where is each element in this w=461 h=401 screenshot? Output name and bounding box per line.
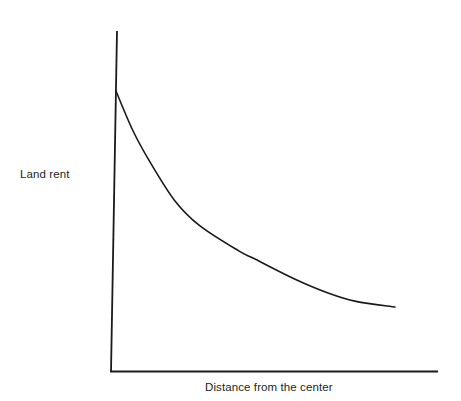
y-axis-line [111,31,117,372]
chart-plot-area [0,0,461,401]
bid-rent-curve [116,91,395,307]
bid-rent-chart: Land rent Distance from the center [0,0,461,401]
y-axis-label: Land rent [20,168,70,181]
x-axis-label: Distance from the center [205,381,333,394]
